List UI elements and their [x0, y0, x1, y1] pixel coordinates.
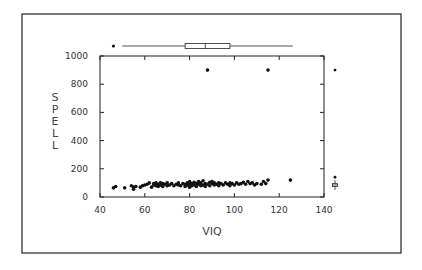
plot-frame — [100, 56, 324, 197]
x-axis-tick-labels: 406080100120140 — [94, 205, 333, 215]
y-axis-tick-labels: 02004006008001000 — [65, 51, 88, 202]
data-point — [266, 178, 270, 182]
scatter-chart: 406080100120140 02004006008001000 VIQ SP… — [0, 0, 422, 270]
x-tick-label: 40 — [94, 205, 106, 215]
data-point — [259, 183, 263, 187]
top-marginal-boxplot — [112, 44, 293, 49]
data-point — [177, 181, 181, 185]
x-axis-title: VIQ — [202, 225, 222, 238]
y-tick-label: 0 — [82, 192, 88, 202]
x-tick-label: 80 — [184, 205, 196, 215]
data-point — [206, 68, 210, 72]
data-point — [114, 185, 118, 189]
right-marginal-boxplot — [333, 69, 338, 190]
y-axis-title-letter: L — [52, 139, 59, 152]
x-tick-label: 140 — [315, 205, 332, 215]
x-tick-label: 100 — [226, 205, 243, 215]
y-axis-ticks — [100, 56, 324, 197]
y-tick-label: 600 — [71, 107, 88, 117]
outer-frame — [22, 14, 401, 253]
y-tick-label: 400 — [71, 136, 88, 146]
data-point — [264, 182, 268, 186]
x-tick-label: 60 — [139, 205, 151, 215]
x-tick-label: 120 — [271, 205, 288, 215]
data-point — [255, 182, 259, 186]
data-points — [112, 68, 293, 191]
x-axis-ticks — [100, 56, 324, 197]
data-point — [266, 68, 270, 72]
y-tick-label: 200 — [71, 164, 88, 174]
data-point — [289, 178, 293, 182]
y-tick-label: 800 — [71, 79, 88, 89]
data-point — [134, 185, 138, 189]
data-point — [201, 179, 205, 183]
data-point — [147, 181, 151, 185]
data-point — [123, 186, 127, 190]
data-point — [244, 183, 248, 187]
y-tick-label: 1000 — [65, 51, 88, 61]
y-axis-title: SPELL — [52, 91, 59, 152]
